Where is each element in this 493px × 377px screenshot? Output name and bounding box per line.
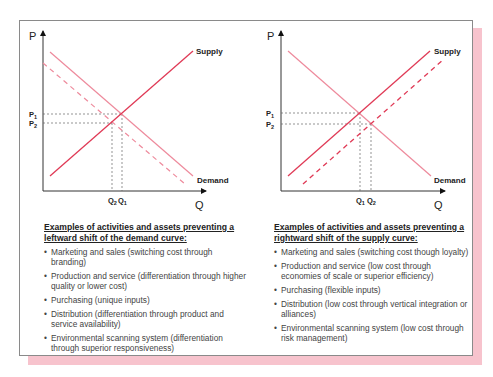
left-p2-label: P2: [29, 119, 37, 129]
right-supply-shifted-dashed: [303, 59, 444, 184]
bullet-icon: •: [274, 261, 277, 271]
right-q-axis-label: Q: [434, 199, 443, 211]
right-examples-heading: Examples of activities and assets preven…: [274, 222, 470, 244]
right-p-axis-label: P: [267, 30, 274, 42]
left-q2-label: Q2: [108, 196, 117, 206]
bullet-icon: •: [274, 285, 277, 295]
bullet-icon: •: [44, 333, 47, 343]
left-q1-label: Q1: [118, 196, 127, 206]
list-item: •Distribution (differentiation through p…: [44, 309, 249, 329]
left-supply-label: Supply: [196, 47, 223, 56]
bullet-icon: •: [44, 271, 47, 281]
list-item: •Marketing and sales (switching cost tho…: [274, 247, 470, 257]
left-demand-label: Demand: [197, 176, 229, 185]
right-demand-label: Demand: [434, 176, 466, 185]
right-p2-label: P2: [266, 120, 274, 130]
bullet-icon: •: [274, 299, 277, 309]
list-item: •Production and service (low cost throug…: [274, 261, 470, 281]
left-demand-shifted-dashed: [43, 63, 185, 184]
bullet-icon: •: [274, 247, 277, 257]
right-p1-label: P1: [266, 109, 274, 119]
right-q2-label: Q2: [367, 196, 376, 206]
list-item: •Distribution (low cost through vertical…: [274, 299, 470, 319]
left-examples-heading: Examples of activities and assets preven…: [44, 222, 249, 244]
left-q-axis-label: Q: [195, 199, 204, 211]
bullet-icon: •: [44, 247, 47, 257]
left-chart: P Q Supply Demand P1 P2 Q2 Q1: [29, 30, 229, 211]
list-item: •Environmental scanning system (differen…: [44, 333, 249, 353]
bullet-icon: •: [44, 309, 47, 319]
right-examples-block: Examples of activities and assets preven…: [274, 222, 470, 347]
left-p-axis-label: P: [29, 30, 36, 42]
left-examples-list: •Marketing and sales (switching cost thr…: [44, 247, 249, 353]
right-supply-label: Supply: [434, 47, 461, 56]
right-q1-label: Q1: [356, 196, 365, 206]
list-item: •Environmental scanning system (low cost…: [274, 323, 470, 343]
list-item: •Purchasing (unique inputs): [44, 295, 249, 305]
bullet-icon: •: [274, 323, 277, 333]
bullet-icon: •: [44, 295, 47, 305]
right-chart: P Q Supply Demand P1 P2 Q1 Q2: [266, 30, 466, 211]
left-examples-block: Examples of activities and assets preven…: [44, 222, 249, 357]
list-item: •Marketing and sales (switching cost thr…: [44, 247, 249, 267]
list-item: •Production and service (differentiation…: [44, 271, 249, 291]
right-examples-list: •Marketing and sales (switching cost tho…: [274, 247, 470, 343]
list-item: •Purchasing (flexible inputs): [274, 285, 470, 295]
